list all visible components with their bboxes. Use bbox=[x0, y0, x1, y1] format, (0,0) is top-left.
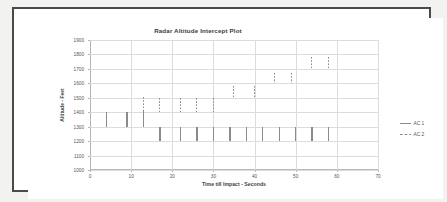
y-tick-label: 1100 bbox=[74, 153, 84, 158]
legend-line-icon bbox=[400, 134, 411, 135]
data-point-ac-2 bbox=[328, 57, 329, 69]
y-tick-mark bbox=[88, 127, 90, 128]
data-point-ac-2 bbox=[274, 73, 275, 84]
x-gridline bbox=[337, 40, 338, 170]
x-gridline bbox=[172, 40, 173, 170]
y-gridline bbox=[90, 156, 378, 157]
y-tick-label: 1000 bbox=[74, 168, 84, 173]
legend-label: AC 2 bbox=[414, 132, 425, 137]
y-tick-label: 1900 bbox=[74, 38, 84, 43]
data-point-ac-1 bbox=[279, 127, 280, 141]
data-point-ac-1 bbox=[328, 127, 329, 141]
data-point-ac-1 bbox=[295, 127, 296, 141]
y-gridline bbox=[90, 54, 378, 55]
data-point-ac-1 bbox=[229, 127, 230, 141]
data-point-ac-1 bbox=[143, 111, 144, 127]
plot-area: 1000110012001300140015001600170018001900… bbox=[90, 40, 378, 170]
y-tick-label: 1700 bbox=[74, 66, 84, 71]
data-point-ac-1 bbox=[106, 112, 107, 126]
y-gridline bbox=[90, 112, 378, 113]
data-point-ac-2 bbox=[143, 97, 144, 112]
y-tick-label: 1300 bbox=[74, 124, 84, 129]
x-tick-mark bbox=[337, 170, 338, 172]
chart-title: Radar Altitude Intercept Plot bbox=[28, 27, 368, 34]
data-point-ac-2 bbox=[213, 98, 214, 112]
y-tick-mark bbox=[88, 141, 90, 142]
x-tick-mark bbox=[172, 170, 173, 172]
y-tick-mark bbox=[88, 156, 90, 157]
data-point-ac-1 bbox=[213, 127, 214, 141]
x-gridline bbox=[255, 40, 256, 170]
data-point-ac-1 bbox=[246, 127, 247, 141]
data-point-ac-1 bbox=[262, 127, 263, 141]
x-axis-title: Time till Impact - Seconds bbox=[90, 181, 378, 187]
x-tick-mark bbox=[296, 170, 297, 172]
y-gridline bbox=[90, 83, 378, 84]
y-tick-label: 1200 bbox=[74, 139, 84, 144]
y-gridline bbox=[90, 40, 378, 41]
y-gridline bbox=[90, 141, 378, 142]
x-tick-label: 60 bbox=[334, 174, 339, 179]
screenshot-canvas: Radar Altitude Intercept Plot Altitude -… bbox=[0, 0, 447, 202]
x-gridline bbox=[131, 40, 132, 170]
x-gridline bbox=[378, 40, 379, 170]
y-gridline bbox=[90, 98, 378, 99]
chart-legend: AC 1AC 2 bbox=[400, 118, 424, 140]
legend-item[interactable]: AC 1 bbox=[400, 118, 424, 129]
data-point-ac-2 bbox=[254, 86, 255, 98]
x-tick-mark bbox=[131, 170, 132, 172]
data-point-ac-1 bbox=[159, 127, 160, 141]
chart-figure: Radar Altitude Intercept Plot Altitude -… bbox=[28, 18, 443, 199]
legend-item[interactable]: AC 2 bbox=[400, 129, 424, 140]
y-tick-label: 1400 bbox=[74, 110, 84, 115]
x-tick-label: 20 bbox=[170, 174, 175, 179]
x-tick-label: 10 bbox=[129, 174, 134, 179]
data-point-ac-1 bbox=[196, 127, 197, 141]
x-tick-label: 40 bbox=[252, 174, 257, 179]
data-point-ac-1 bbox=[311, 127, 312, 141]
data-point-ac-2 bbox=[159, 98, 160, 112]
x-tick-mark bbox=[213, 170, 214, 172]
y-gridline bbox=[90, 69, 378, 70]
y-tick-mark bbox=[88, 69, 90, 70]
y-tick-mark bbox=[88, 83, 90, 84]
legend-line-icon bbox=[400, 123, 411, 124]
data-point-ac-2 bbox=[311, 57, 312, 69]
y-tick-mark bbox=[88, 112, 90, 113]
y-axis-line bbox=[90, 40, 91, 170]
data-point-ac-2 bbox=[196, 98, 197, 112]
x-tick-mark bbox=[90, 170, 91, 172]
x-tick-label: 70 bbox=[375, 174, 380, 179]
data-point-ac-1 bbox=[126, 112, 127, 126]
scanned-page: Radar Altitude Intercept Plot Altitude -… bbox=[12, 7, 431, 192]
y-tick-mark bbox=[88, 98, 90, 99]
x-tick-label: 30 bbox=[211, 174, 216, 179]
x-tick-mark bbox=[378, 170, 379, 172]
legend-label: AC 1 bbox=[414, 121, 425, 126]
data-point-ac-2 bbox=[291, 73, 292, 84]
y-tick-label: 1800 bbox=[74, 52, 84, 57]
y-gridline bbox=[90, 170, 378, 171]
y-tick-mark bbox=[88, 54, 90, 55]
y-tick-label: 1500 bbox=[74, 95, 84, 100]
y-axis-title: Altitude - Feet bbox=[59, 88, 65, 121]
x-tick-label: 50 bbox=[293, 174, 298, 179]
data-point-ac-2 bbox=[233, 86, 234, 98]
data-point-ac-1 bbox=[180, 127, 181, 141]
x-tick-mark bbox=[255, 170, 256, 172]
data-point-ac-2 bbox=[180, 98, 181, 112]
x-gridline bbox=[296, 40, 297, 170]
y-gridline bbox=[90, 127, 378, 128]
x-tick-label: 0 bbox=[89, 174, 92, 179]
y-tick-label: 1600 bbox=[74, 81, 84, 86]
y-tick-mark bbox=[88, 40, 90, 41]
